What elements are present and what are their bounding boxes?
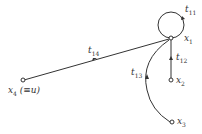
label-x1: x1: [184, 34, 193, 45]
arrow-icon: [181, 16, 185, 20]
edge-t11-loop: [158, 12, 184, 38]
node-x2: [169, 78, 173, 82]
label-t11: t11: [185, 5, 196, 16]
node-x4: [21, 78, 25, 82]
arrow-icon: [169, 56, 173, 60]
node-x1: [169, 36, 173, 40]
node-x3: [170, 120, 174, 124]
label-x2: x2: [176, 76, 185, 87]
label-t14: t14: [88, 46, 99, 57]
label-x4: x4 (≡u): [8, 86, 40, 97]
label-t13: t13: [131, 68, 142, 79]
edge-t13: [146, 40, 170, 122]
label-x3: x3: [177, 117, 186, 128]
label-t12: t12: [176, 53, 187, 64]
signal-flow-graph: [0, 0, 202, 134]
